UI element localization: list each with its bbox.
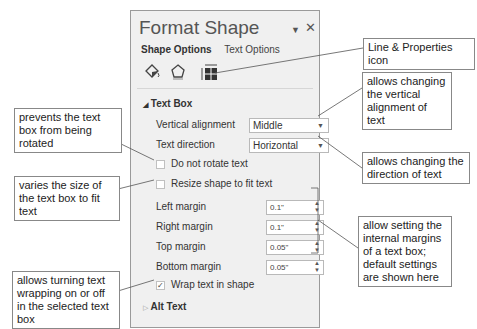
callout-vertical-alignment: allows changing the vertical alignment o… xyxy=(362,72,452,130)
callout-line-properties: Line & Properties icon xyxy=(363,38,475,70)
callout-resize: varies the size of the text box to fit t… xyxy=(14,176,120,221)
callout-direction: allows changing the direction of text xyxy=(362,152,470,184)
callout-margins: allow setting the internal margins of a … xyxy=(358,216,452,287)
callout-wrap: allows turning text wrapping on or off i… xyxy=(12,271,120,329)
callout-rotate: prevents the text box from being rotated xyxy=(14,108,122,153)
